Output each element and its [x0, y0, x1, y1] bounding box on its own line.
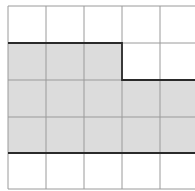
shaded-cell — [84, 80, 122, 117]
shaded-cell — [8, 117, 46, 153]
shaded-cell — [46, 117, 84, 153]
shaded-cell — [160, 80, 195, 117]
shaded-cell — [122, 117, 160, 153]
shaded-cell — [160, 117, 195, 153]
shaded-cell — [8, 43, 46, 80]
shaded-cell — [84, 117, 122, 153]
shaded-cell — [46, 80, 84, 117]
shaded-cell — [46, 43, 84, 80]
shaded-cell — [84, 43, 122, 80]
shaded-cell — [8, 80, 46, 117]
shaded-region — [8, 43, 195, 153]
grid-diagram — [0, 0, 195, 191]
shaded-cell — [122, 80, 160, 117]
